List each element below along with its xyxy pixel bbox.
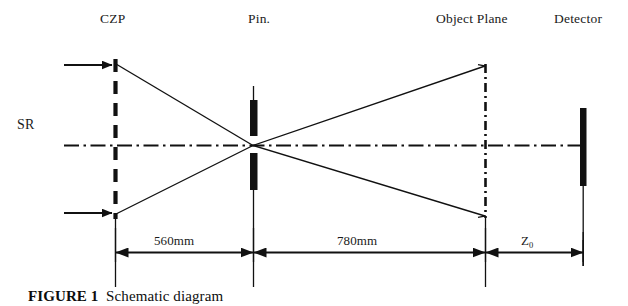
sr-beam-arrows xyxy=(64,65,112,213)
z-subscript: 0 xyxy=(529,240,533,250)
label-detector: Detector xyxy=(554,12,602,26)
figure-caption-text: Schematic diagram xyxy=(106,288,223,304)
figure-caption: FIGURE 1 Schematic diagram xyxy=(28,288,223,305)
label-object-plane: Object Plane xyxy=(436,12,508,26)
label-czp: CZP xyxy=(100,12,125,26)
label-sr-source: SR xyxy=(17,118,35,132)
figure-caption-label: FIGURE 1 xyxy=(28,288,106,304)
z-symbol: Z xyxy=(521,233,529,248)
optical-schematic-diagram xyxy=(0,0,628,306)
label-pinhole: Pin. xyxy=(248,12,270,26)
beam-rays xyxy=(116,64,486,217)
figure-container: CZP Pin. Object Plane Detector SR 560mm … xyxy=(0,0,628,306)
dimension-object-to-detector: Z0 xyxy=(521,234,533,247)
dimension-pinhole-to-object: 780mm xyxy=(337,234,377,247)
dimension-czp-to-pinhole: 560mm xyxy=(154,234,194,247)
